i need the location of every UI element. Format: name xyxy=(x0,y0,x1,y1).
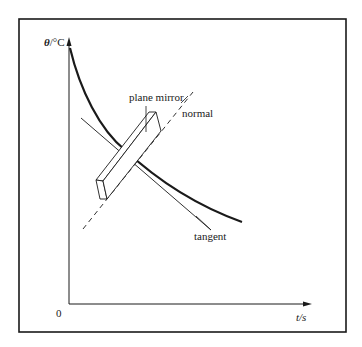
tangent-label: tangent xyxy=(194,230,226,242)
cooling-curve-diagram: θ/°C t/s 0 plane mirror normal tangent xyxy=(0,0,362,347)
plane-mirror xyxy=(96,112,161,199)
x-axis-label: t/s xyxy=(296,311,306,323)
y-axis-label: θ/°C xyxy=(44,36,65,48)
x-axis-arrowhead xyxy=(303,302,312,307)
normal-label: normal xyxy=(182,107,213,119)
origin-label: 0 xyxy=(56,307,62,319)
mirror-label: plane mirror xyxy=(129,91,184,103)
y-axis-arrowhead xyxy=(67,37,72,46)
frame xyxy=(19,19,346,332)
tangent-leader xyxy=(196,216,211,230)
